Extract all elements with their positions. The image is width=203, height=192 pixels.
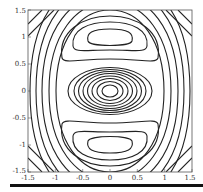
y-tick-label: -1.5 — [13, 167, 27, 175]
x-tick-label: 1.5 — [184, 174, 195, 182]
x-tick-label: -0.5 — [76, 174, 90, 182]
x-axis: -1.5 -1 -0.5 0 0.5 1 1.5 — [21, 169, 195, 182]
lower-lobe — [62, 121, 159, 166]
y-tick-label: -0.5 — [13, 114, 27, 122]
y-tick-label: 0.5 — [15, 60, 26, 68]
x-tick-label: -1.5 — [21, 174, 35, 182]
x-tick-label: -1 — [52, 174, 59, 182]
x-tick-label: 0.5 — [132, 174, 143, 182]
x-tick-label: 1 — [162, 174, 166, 182]
y-tick-label: 0 — [22, 87, 26, 95]
center-ellipses — [68, 68, 152, 115]
contour-plot: -1.5 -1 -0.5 0 0.5 1 1.5 -1.5 -1 -0.5 0 … — [0, 0, 203, 192]
y-tick-label: -1 — [19, 141, 26, 149]
contour-lines — [28, 0, 192, 192]
y-tick-label: 1.5 — [15, 7, 26, 15]
bottom-divider — [10, 184, 203, 187]
x-tick-label: 0 — [108, 174, 112, 182]
y-tick-label: 1 — [22, 33, 26, 41]
upper-lobe — [62, 16, 159, 61]
